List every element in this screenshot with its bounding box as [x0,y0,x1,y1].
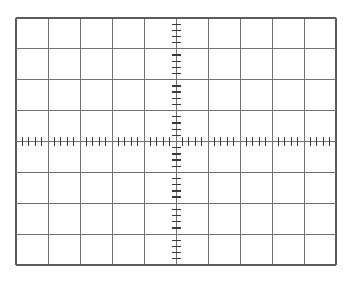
oscilloscope-screen [0,0,349,281]
graticule-grid [0,0,349,281]
